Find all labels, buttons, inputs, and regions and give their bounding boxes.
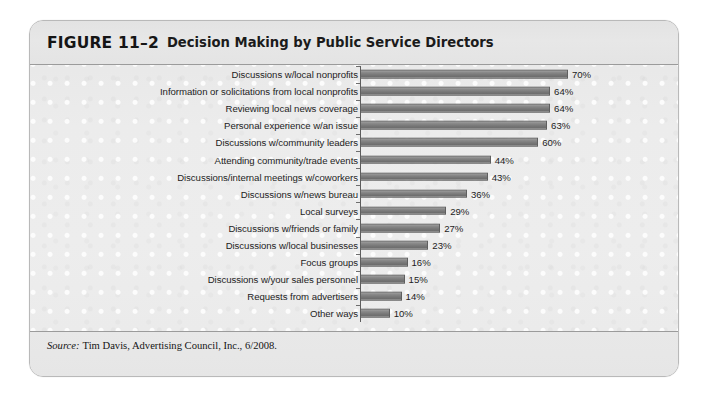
bar [360,172,488,181]
axis-tick [356,237,360,238]
chart-row: Discussions w/your sales personnel15% [30,271,679,288]
bar-value-label: 64% [554,86,573,97]
bar-value-label: 16% [412,257,431,268]
axis-tick [356,117,360,118]
axis-tick [356,202,360,203]
figure-card: FIGURE 11–2 Decision Making by Public Se… [29,20,679,377]
bar [360,207,446,216]
figure-number: FIGURE 11–2 [47,34,159,52]
chart-row: Discussions w/friends or family27% [30,219,679,236]
category-label: Attending community/trade events [215,154,358,165]
chart-row: Discussions/internal meetings w/coworker… [30,168,679,185]
bar-value-label: 60% [542,137,561,148]
bar-value-label: 43% [492,171,511,182]
axis-tick [356,305,360,306]
category-label: Personal experience w/an issue [224,120,358,131]
bar-value-label: 15% [409,274,428,285]
category-label: Discussions w/news bureau [241,188,358,199]
category-label: Reviewing local news coverage [226,103,358,114]
bar-chart-plot-area: Discussions w/local nonprofits70%Informa… [30,65,679,333]
figure-title: Decision Making by Public Service Direct… [167,35,494,50]
axis-tick [356,288,360,289]
bar-value-label: 64% [554,103,573,114]
source-text: Tim Davis, Advertising Council, Inc., 6/… [83,340,277,351]
bar [360,258,408,267]
category-label: Requests from advertisers [247,291,358,302]
chart-row: Discussions w/community leaders60% [30,134,679,151]
figure-footer: Source: Tim Davis, Advertising Council, … [30,331,678,376]
bar [360,241,428,250]
chart-row: Other ways10% [30,305,679,322]
bar [360,155,491,164]
bar [360,70,568,79]
axis-tick [356,185,360,186]
category-label: Discussions w/your sales personnel [208,274,358,285]
axis-tick [356,100,360,101]
bar-value-label: 10% [394,308,413,319]
axis-tick [356,219,360,220]
bar [360,292,402,301]
category-label: Discussions w/local businesses [226,240,358,251]
chart-row: Requests from advertisers14% [30,288,679,305]
chart-row: Reviewing local news coverage64% [30,100,679,117]
bar [360,224,440,233]
axis-tick [356,151,360,152]
category-label: Discussions w/local nonprofits [232,69,358,80]
bar [360,189,467,198]
bar [360,275,405,284]
figure-header: FIGURE 11–2 Decision Making by Public Se… [30,21,678,65]
axis-tick [356,254,360,255]
bar-value-label: 14% [406,291,425,302]
chart-row: Discussions w/news bureau36% [30,185,679,202]
axis-tick [356,83,360,84]
category-label: Focus groups [300,257,358,268]
bar-value-label: 70% [572,69,591,80]
bar-value-label: 36% [471,188,490,199]
chart-row: Local surveys29% [30,202,679,219]
source-label: Source: [47,340,80,351]
chart-row: Information or solicitations from local … [30,83,679,100]
axis-tick [356,271,360,272]
category-label: Information or solicitations from local … [160,86,358,97]
chart-row: Discussions w/local businesses23% [30,237,679,254]
chart-row: Discussions w/local nonprofits70% [30,66,679,83]
bar [360,309,390,318]
axis-tick [356,134,360,135]
chart-row: Focus groups16% [30,254,679,271]
axis-tick [356,168,360,169]
bar [360,138,538,147]
category-label: Discussions w/friends or family [228,222,358,233]
bar [360,104,550,113]
category-label: Discussions/internal meetings w/coworker… [177,171,358,182]
axis-tick [356,66,360,67]
bar-value-label: 44% [495,154,514,165]
bar-value-label: 27% [444,222,463,233]
bar [360,121,547,130]
bar-value-label: 63% [551,120,570,131]
chart-row: Attending community/trade events44% [30,151,679,168]
category-label: Other ways [310,308,358,319]
bar-value-label: 23% [432,240,451,251]
category-label: Discussions w/community leaders [216,137,358,148]
bar [360,87,550,96]
chart-row: Personal experience w/an issue63% [30,117,679,134]
category-label: Local surveys [300,205,358,216]
bar-value-label: 29% [450,205,469,216]
